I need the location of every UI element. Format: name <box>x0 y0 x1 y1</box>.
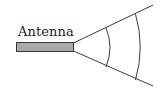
beam-lower-edge <box>74 51 154 86</box>
wavefront-inner <box>106 28 110 67</box>
diagram-canvas <box>0 0 166 88</box>
antenna-bar <box>17 43 74 52</box>
wavefront-outer <box>136 14 141 80</box>
antenna-label: Antenna <box>18 24 74 39</box>
antenna-beam-diagram: Antenna <box>0 0 166 88</box>
beam-upper-edge <box>74 5 154 43</box>
